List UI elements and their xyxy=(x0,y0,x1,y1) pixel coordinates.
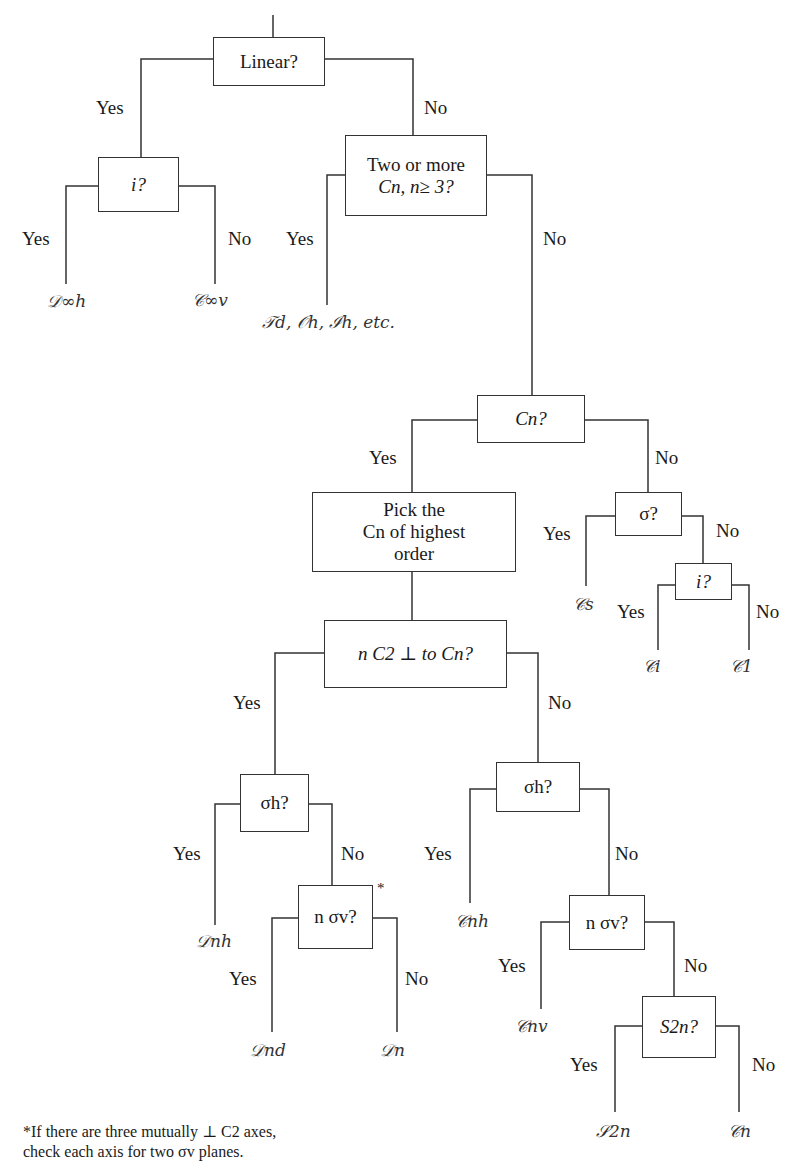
node-sigma: σ? xyxy=(615,492,682,536)
footnote-line2: check each axis for two σv planes. xyxy=(23,1142,244,1162)
label-multi-cn-no: No xyxy=(543,228,566,250)
leaf-dnd: 𝒟nd xyxy=(250,1040,286,1060)
label-s2n-yes: Yes xyxy=(570,1054,598,1076)
node-n-sigma-v-c-label: n σv? xyxy=(586,912,628,934)
node-sigma-h-d: σh? xyxy=(240,774,309,832)
clipped-caption xyxy=(100,1168,700,1176)
leaf-ci: 𝒞i xyxy=(643,656,660,676)
label-inv-low-yes: Yes xyxy=(617,601,645,623)
node-pick-line3: order xyxy=(394,543,434,565)
node-multiple-cn-line2: Cn, n≥ 3? xyxy=(378,176,453,198)
label-nc2-no: No xyxy=(548,692,571,714)
node-inversion-linear-label: i? xyxy=(131,174,146,196)
node-nc2-perp: n C2 ⊥ to Cn? xyxy=(324,620,507,688)
node-sigma-h-d-label: σh? xyxy=(260,792,288,814)
node-s2n-label: S2n? xyxy=(660,1016,698,1038)
node-inversion-low: i? xyxy=(675,563,732,600)
leaf-cnv: 𝒞nv xyxy=(515,1016,548,1036)
label-inv-linear-no: No xyxy=(228,228,251,250)
label-sigma-h-d-no: No xyxy=(341,843,364,865)
leaf-cs: 𝒞s xyxy=(573,594,594,614)
label-n-sigma-v-d-no: No xyxy=(405,968,428,990)
leaf-s2n: 𝒮2n xyxy=(596,1121,631,1141)
label-sigma-h-c-no: No xyxy=(615,843,638,865)
footnote-line1: *If there are three mutually ⊥ C2 axes, xyxy=(23,1122,276,1142)
leaf-cnh: 𝒞nh xyxy=(455,911,489,931)
label-s2n-no: No xyxy=(752,1054,775,1076)
node-n-sigma-v-d: n σv? xyxy=(298,885,373,949)
label-sigma-h-d-yes: Yes xyxy=(173,843,201,865)
node-sigma-h-c-label: σh? xyxy=(524,776,552,798)
node-n-sigma-v-d-label: n σv? xyxy=(314,906,356,928)
node-sigma-label: σ? xyxy=(639,503,658,525)
label-n-sigma-v-d-yes: Yes xyxy=(229,968,257,990)
node-linear-label: Linear? xyxy=(240,51,298,73)
leaf-d-inf-h: 𝒟∞h xyxy=(47,291,86,311)
label-inv-low-no: No xyxy=(756,601,779,623)
label-n-sigma-v-c-no: No xyxy=(684,955,707,977)
label-cn-yes: Yes xyxy=(369,447,397,469)
leaf-c-inf-v: 𝒞∞v xyxy=(192,290,228,310)
node-pick-line1: Pick the xyxy=(383,499,445,521)
node-sigma-h-c: σh? xyxy=(496,762,580,812)
leaf-dn: 𝒟n xyxy=(380,1040,405,1060)
label-n-sigma-v-c-yes: Yes xyxy=(498,955,526,977)
label-linear-no: No xyxy=(424,97,447,119)
label-cn-no: No xyxy=(655,447,678,469)
node-pick-highest-cn: Pick the Cn of highest order xyxy=(312,492,516,572)
label-sigma-no: No xyxy=(716,520,739,542)
node-linear: Linear? xyxy=(213,37,325,86)
leaf-dnh: 𝒟nh xyxy=(196,931,232,951)
label-multi-cn-yes: Yes xyxy=(286,228,314,250)
node-nc2-perp-label: n C2 ⊥ to Cn? xyxy=(358,643,473,665)
leaf-c1: 𝒞1 xyxy=(730,656,753,676)
node-n-sigma-v-c: n σv? xyxy=(569,895,645,950)
node-multiple-cn-line1: Two or more xyxy=(367,154,465,176)
asterisk-marker: * xyxy=(377,880,385,897)
node-inversion-low-label: i? xyxy=(696,571,711,593)
leaf-cn: 𝒞n xyxy=(728,1121,751,1141)
label-linear-yes: Yes xyxy=(96,97,124,119)
label-sigma-yes: Yes xyxy=(543,523,571,545)
leaf-high-symmetry: 𝒯d, 𝒪h, ℐh, etc. xyxy=(262,312,395,332)
node-s2n: S2n? xyxy=(642,996,716,1058)
node-cn-label: Cn? xyxy=(515,408,547,430)
node-cn: Cn? xyxy=(477,395,585,443)
node-inversion-linear: i? xyxy=(98,157,179,212)
label-inv-linear-yes: Yes xyxy=(22,228,50,250)
label-nc2-yes: Yes xyxy=(233,692,261,714)
node-multiple-cn: Two or more Cn, n≥ 3? xyxy=(345,135,487,216)
node-pick-line2: Cn of highest xyxy=(363,521,465,543)
label-sigma-h-c-yes: Yes xyxy=(424,843,452,865)
